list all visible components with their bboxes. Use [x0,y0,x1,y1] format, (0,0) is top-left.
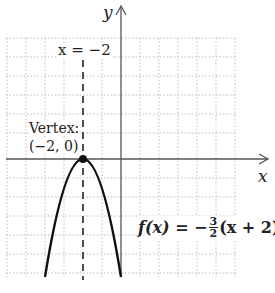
fraction-denominator: 2 [210,228,218,239]
axis-of-symmetry-label: x = −2 [57,43,112,58]
function-rhs: (x + 2) [219,220,275,236]
function-lhs: f(x) = − [138,220,208,236]
vertex-label: Vertex: [29,121,79,135]
fraction: 3 2 [209,216,219,239]
vertex-coordinates: (−2, 0) [29,139,78,153]
vertex-point [79,155,87,163]
x-axis-label: x [258,168,268,185]
y-axis-label: y [103,4,113,21]
parabola-diagram: y x x = −2 Vertex: (−2, 0) f(x) = − 3 2 … [0,0,275,293]
function-label: f(x) = − 3 2 (x + 2) 2 [138,216,275,239]
